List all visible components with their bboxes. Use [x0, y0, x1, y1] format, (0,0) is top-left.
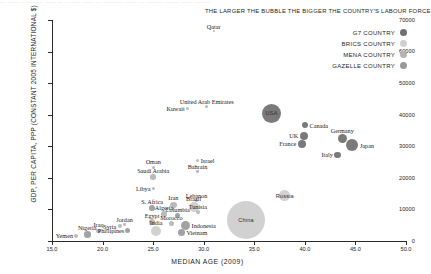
bubble-label-iran: Iran	[168, 194, 178, 201]
y-axis-title: GDP, PER CAPITA, PPP (CONSTANT 2005 INTE…	[30, 13, 37, 203]
bubble-label-libya: Libya	[136, 185, 150, 192]
bubble-france[interactable]	[298, 140, 306, 148]
bubble-label-nigeria: Nigeria	[78, 224, 97, 231]
bubble-label-oman: Oman	[146, 158, 161, 165]
bubble-label-saudi-arabia: Saudi Arabia	[137, 167, 169, 174]
x-tick-label: 15.0	[37, 246, 67, 252]
bubble-israel[interactable]	[196, 159, 199, 162]
bubble-canada[interactable]	[302, 122, 308, 128]
bubble-nigeria[interactable]	[84, 231, 90, 237]
scatter-plot-area: QatarKuwaitUnited Arab EmiratesUSACanada…	[52, 20, 406, 241]
bubble-label-kuwait: Kuwait	[166, 105, 184, 112]
x-tick	[52, 241, 53, 245]
bubble-japan[interactable]	[346, 139, 358, 151]
bubble-label-indonesia: Indonesia	[192, 222, 216, 229]
bubble-italy[interactable]	[334, 152, 341, 159]
x-tick	[153, 241, 154, 245]
bubble-label-france: France	[279, 140, 296, 147]
bubble-label-yemen: Yemen	[56, 232, 73, 239]
bubble-kuwait[interactable]	[186, 107, 189, 110]
x-tick-label: 20.0	[88, 246, 118, 252]
bubble-label-japan: Japan	[360, 142, 374, 149]
bubble-label-qatar: Qatar	[207, 23, 221, 30]
bubble-jordan[interactable]	[123, 223, 126, 226]
x-tick-label: 40.0	[290, 246, 320, 252]
bubble-label-united-arab-emirates: United Arab Emirates	[180, 98, 234, 105]
bubble-india[interactable]	[151, 226, 161, 236]
bubble-label-uk: UK	[289, 132, 298, 139]
x-tick-label: 30.0	[189, 246, 219, 252]
bubble-label-morocco: Morocco	[160, 214, 182, 221]
bubble-qatar[interactable]	[213, 30, 215, 32]
x-tick	[204, 241, 205, 245]
bubble-label-germany: Germany	[331, 127, 354, 134]
bubble-saudi-arabia[interactable]	[150, 174, 156, 180]
bubble-label-italy: Italy	[321, 151, 332, 158]
bubble-label-usa: USA	[265, 110, 277, 116]
bubble-label-egypt: Egypt	[145, 212, 160, 219]
x-axis-title: MEDIAN AGE (2009)	[0, 258, 415, 265]
x-tick-label: 35.0	[239, 246, 269, 252]
x-tick	[355, 241, 356, 245]
bubble-label-brazil: Brazil	[186, 195, 201, 202]
bubble-label-vietnam: Vietnam	[186, 229, 207, 236]
clipped-header-text: — —— — ——— —— — ——— —— — ———— —— — ——— —…	[0, 0, 415, 5]
bubble-label-india: India	[150, 219, 163, 226]
bubble-label-jordan: Jordan	[116, 216, 133, 223]
x-tick-label: 50.0	[391, 246, 421, 252]
bubble-label-canada: Canada	[310, 122, 329, 129]
x-tick	[254, 241, 255, 245]
bubble-vietnam[interactable]	[178, 229, 185, 236]
bubble-united-arab-emirates[interactable]	[205, 105, 208, 108]
x-tick	[406, 241, 407, 245]
x-tick-label: 25.0	[138, 246, 168, 252]
bubble-label-china: China	[238, 217, 254, 223]
bubble-tunisia[interactable]	[196, 210, 200, 214]
bubble-size-note: THE LARGER THE BUBBLE THE BIGGER THE COU…	[205, 8, 431, 14]
bubble-libya[interactable]	[152, 187, 155, 190]
bubble-yemen[interactable]	[74, 234, 78, 238]
x-tick-label: 45.0	[340, 246, 370, 252]
bubble-label-columbia: Columbia	[165, 206, 189, 213]
x-tick	[103, 241, 104, 245]
bubble-uk[interactable]	[300, 132, 308, 140]
bubble-bahrain[interactable]	[196, 170, 199, 173]
bubble-phillipines[interactable]	[125, 228, 130, 233]
bubble-label-tunisia: Tunisia	[189, 203, 207, 210]
bubble-label-bahrain: Bahrain	[188, 163, 208, 170]
x-tick	[305, 241, 306, 245]
bubble-label-russia: Russia	[276, 193, 294, 199]
bubble-morocco[interactable]	[169, 221, 175, 227]
